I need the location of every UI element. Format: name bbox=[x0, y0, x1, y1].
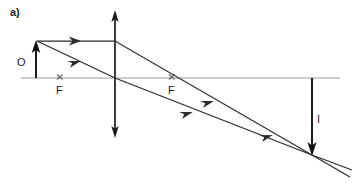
object-label: O bbox=[17, 56, 26, 68]
object-arrow bbox=[32, 40, 41, 78]
focal-label-left: F bbox=[56, 84, 63, 96]
image-label: I bbox=[317, 113, 320, 125]
parallel-ray-arrowhead-2 bbox=[200, 99, 214, 108]
optics-ray-diagram: a) O I F F bbox=[0, 0, 355, 183]
panel-label: a) bbox=[10, 6, 20, 18]
image-arrow bbox=[307, 78, 316, 156]
converging-lens bbox=[111, 10, 118, 138]
chief-ray-arrowhead-2 bbox=[179, 110, 193, 119]
focal-mark-left bbox=[57, 75, 63, 80]
focal-label-right: F bbox=[168, 84, 175, 96]
ray-diagram-canvas: a) O I F F bbox=[0, 0, 355, 183]
